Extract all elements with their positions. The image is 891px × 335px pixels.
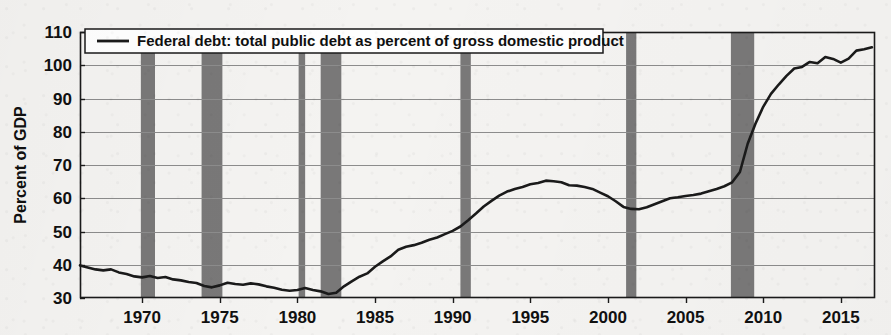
y-axis-title-text: Percent of GDP — [12, 106, 29, 224]
x-tick-label: 2015 — [822, 308, 860, 327]
x-tick-label: 1995 — [511, 308, 549, 327]
y-tick-label: 70 — [53, 156, 72, 175]
y-tick-label: 100 — [44, 56, 72, 75]
x-tick-label: 2005 — [667, 308, 705, 327]
y-tick-label: 90 — [53, 90, 72, 109]
y-tick-label: 60 — [53, 189, 72, 208]
x-tick-label: 2000 — [589, 308, 627, 327]
x-tick-label: 1970 — [123, 308, 161, 327]
x-axis-tick-labels: 1970197519801985199019952000200520102015 — [123, 308, 860, 327]
gridlines-group — [80, 33, 875, 266]
x-tick-label: 1975 — [201, 308, 239, 327]
y-axis-tick-labels: 30405060708090100110 — [44, 23, 72, 308]
legend-entry-label: Federal debt: total public debt as perce… — [137, 32, 624, 49]
x-tick-label: 1985 — [356, 308, 394, 327]
y-axis-title: Percent of GDP — [12, 106, 29, 224]
x-tick-label: 1990 — [434, 308, 472, 327]
y-tick-label: 50 — [53, 223, 72, 242]
y-tick-label: 30 — [53, 289, 72, 308]
y-tick-label: 40 — [53, 256, 72, 275]
x-tick-label: 1980 — [278, 308, 316, 327]
chart-canvas: 1969-70 recession1973-75 recession1980 r… — [0, 0, 891, 335]
y-tick-label: 80 — [53, 123, 72, 142]
y-tick-label: 110 — [45, 23, 72, 42]
x-tick-label: 2010 — [744, 308, 782, 327]
federal-debt-chart-figure: 1969-70 recession1973-75 recession1980 r… — [0, 0, 891, 335]
chart-legend: Federal debt: total public debt as perce… — [85, 29, 624, 53]
